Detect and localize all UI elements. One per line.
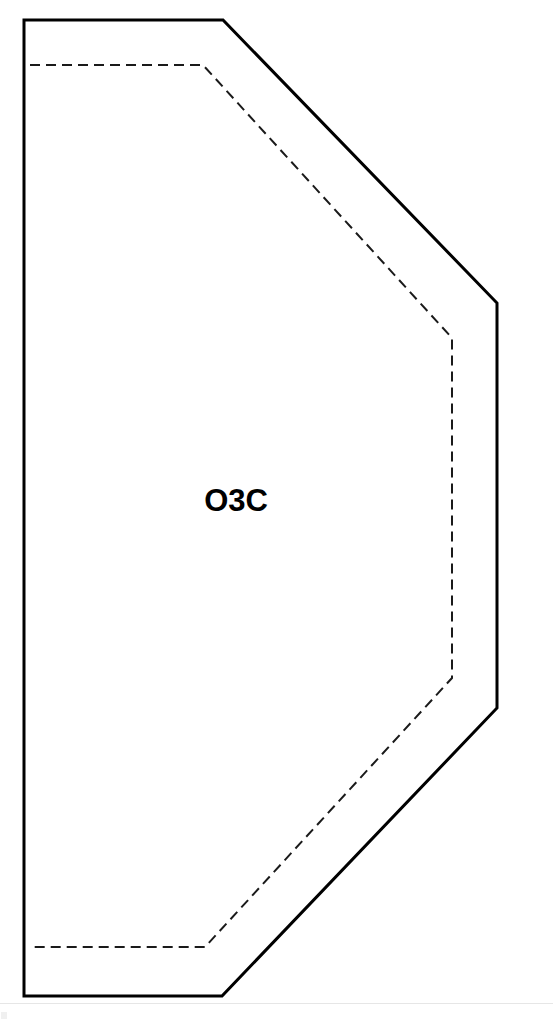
footer-divider <box>0 1003 553 1004</box>
panel-part-label: O3C <box>204 483 268 518</box>
footer-corner-mark <box>1 1012 7 1019</box>
panel-drawing-canvas: O3C <box>0 0 553 1022</box>
